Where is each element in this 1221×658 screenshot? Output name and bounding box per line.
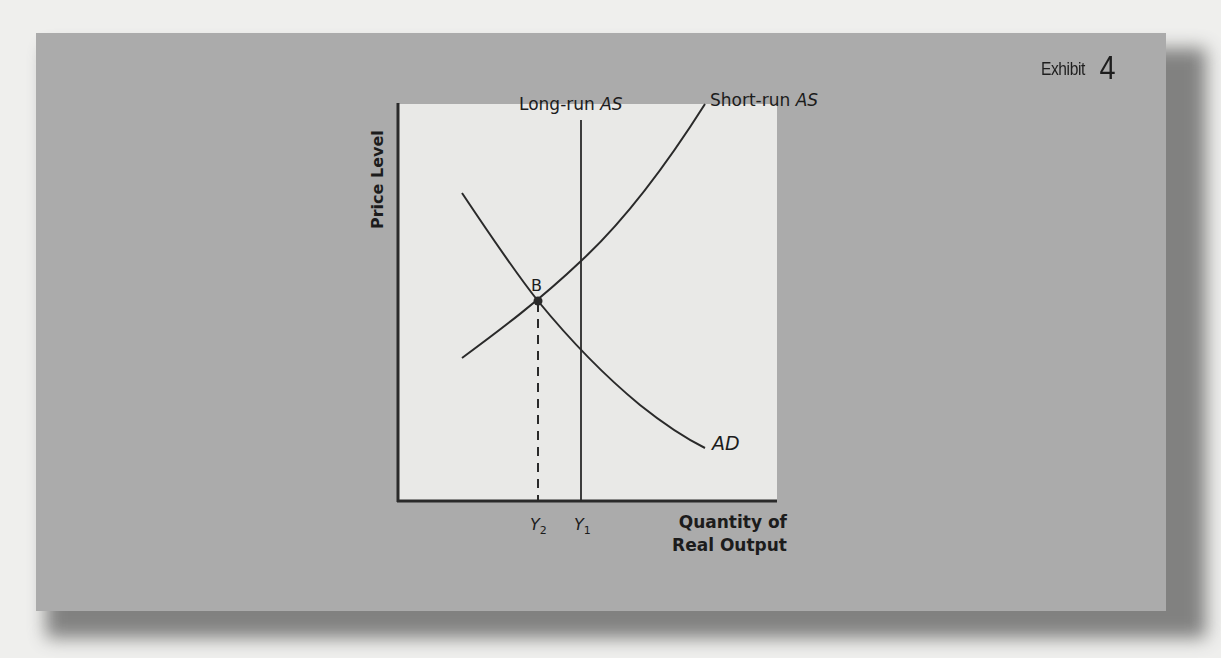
long-run-as-label: Long-run AS xyxy=(519,94,623,114)
point-b-label: B xyxy=(531,276,542,295)
y-axis-label: Price Level xyxy=(368,130,387,229)
ad-label: AD xyxy=(710,432,740,454)
x-axis-label-line2: Real Output xyxy=(672,535,787,555)
y1-tick-label: Y1 xyxy=(574,515,591,537)
as-ad-chart: B Long-run AS Short-run AS AD Price Leve… xyxy=(0,0,1221,658)
point-b-marker xyxy=(534,297,543,306)
y2-tick-label: Y2 xyxy=(530,515,547,537)
x-axis-label-line1: Quantity of xyxy=(679,512,788,532)
short-run-as-label: Short-run AS xyxy=(710,90,818,110)
